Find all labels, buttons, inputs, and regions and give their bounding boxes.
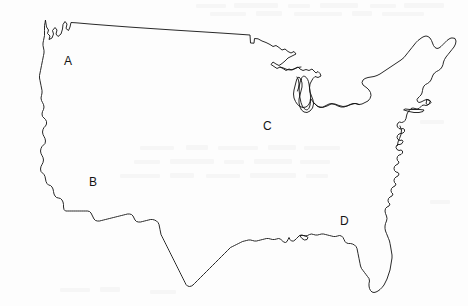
us-outline-map — [0, 0, 468, 306]
mainland-outline-path — [40, 21, 457, 293]
map-label-b: B — [89, 176, 97, 188]
map-label-d: D — [340, 215, 349, 227]
long-island-path — [404, 109, 424, 113]
map-figure: A B C D — [0, 0, 468, 306]
green-bay-path — [297, 77, 299, 91]
mississippi-delta-path — [300, 236, 308, 241]
map-label-c: C — [263, 120, 272, 132]
cape-cod-path — [426, 100, 431, 105]
map-label-a: A — [64, 55, 72, 67]
